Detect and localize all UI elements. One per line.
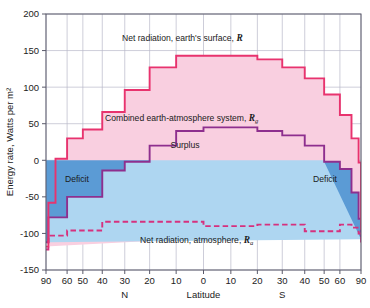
annotation-surplus: Surplus <box>170 140 199 150</box>
x-tick-label: 10 <box>171 275 182 286</box>
hemisphere-label-s: S <box>279 289 285 300</box>
energy-balance-latitude-chart: 200150100500-50-100-15090605040302010010… <box>0 0 370 308</box>
annotation-net-radiation-atmosphere: Net radiation, atmosphere, Ra <box>140 235 254 246</box>
x-tick-label: 40 <box>299 275 310 286</box>
y-tick-label: -100 <box>20 228 39 239</box>
chart-svg: 200150100500-50-100-15090605040302010010… <box>0 0 370 308</box>
x-tick-label: 30 <box>119 275 130 286</box>
annotation-deficit-left: Deficit <box>65 174 89 184</box>
x-tick-label: 50 <box>78 275 89 286</box>
annotation-net-radiation-surface: Net radiation, earth's surface, R <box>122 33 243 43</box>
x-tick-label: 0 <box>201 275 206 286</box>
x-tick-label: 90 <box>356 275 367 286</box>
annotation-combined-system: Combined earth-atmosphere system, Rg <box>105 113 259 124</box>
y-tick-label: 50 <box>28 118 39 129</box>
y-tick-label: -50 <box>25 191 39 202</box>
annotation-deficit-right: Deficit <box>313 174 337 184</box>
x-tick-label: 40 <box>97 275 108 286</box>
y-tick-label: 100 <box>23 82 39 93</box>
x-tick-label: 50 <box>319 275 330 286</box>
x-tick-label: 20 <box>144 275 155 286</box>
y-axis-title: Energy rate, Watts per m² <box>4 88 15 196</box>
x-tick-label: 10 <box>226 275 237 286</box>
x-tick-label: 20 <box>252 275 263 286</box>
series-fills <box>46 56 361 247</box>
x-axis-title: Latitude <box>187 289 221 300</box>
y-tick-label: -150 <box>20 264 39 275</box>
x-tick-label: 60 <box>62 275 73 286</box>
y-tick-label: 150 <box>23 45 39 56</box>
x-tick-label: 30 <box>277 275 288 286</box>
y-tick-label: 0 <box>34 155 39 166</box>
x-tick-label: 60 <box>335 275 346 286</box>
y-tick-label: 200 <box>23 8 39 19</box>
hemisphere-label-n: N <box>121 289 128 300</box>
x-tick-label: 90 <box>41 275 52 286</box>
